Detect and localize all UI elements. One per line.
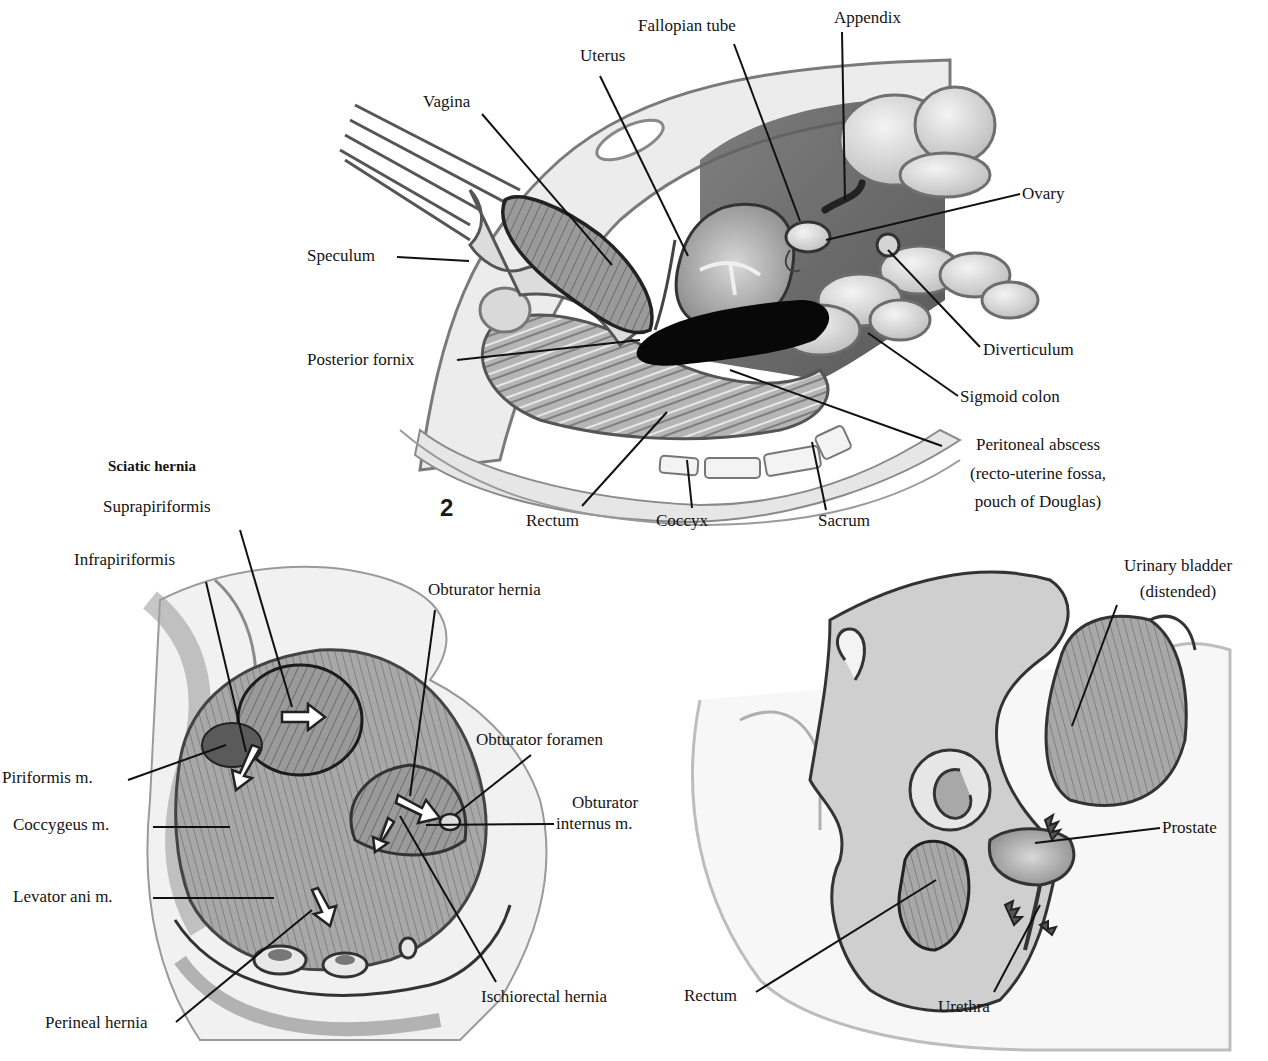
label-sigmoid-colon: Sigmoid colon <box>960 387 1060 407</box>
label-prostate: Prostate <box>1162 818 1217 838</box>
figure-title-sciatic-hernia: Sciatic hernia <box>108 456 196 476</box>
label-coccygeus: Coccygeus m. <box>13 815 109 835</box>
label-urethra: Urethra <box>938 997 990 1017</box>
label-peritoneal-abscess-line3: pouch of Douglas) <box>938 492 1138 512</box>
label-vagina: Vagina <box>423 92 470 112</box>
label-appendix: Appendix <box>834 8 901 28</box>
figure-number: 2 <box>440 494 453 522</box>
figure-3-artwork <box>147 567 546 1040</box>
leader-obturator-internus <box>426 824 554 825</box>
label-posterior-fornix: Posterior fornix <box>307 350 414 370</box>
label-suprapiriformis: Suprapiriformis <box>103 497 211 517</box>
label-infrapiriformis: Infrapiriformis <box>74 550 175 570</box>
label-levator-ani: Levator ani m. <box>13 887 113 907</box>
label-rectum: Rectum <box>526 511 579 531</box>
anatomy-illustration <box>0 0 1268 1061</box>
label-ovary: Ovary <box>1022 184 1064 204</box>
leader-sigmoid-colon <box>868 333 958 396</box>
label-perineal-hernia: Perineal hernia <box>45 1013 147 1033</box>
label-coccyx: Coccyx <box>656 511 708 531</box>
label-sacrum: Sacrum <box>818 511 870 531</box>
label-urinary-bladder-line2: (distended) <box>1098 582 1258 602</box>
label-diverticulum: Diverticulum <box>983 340 1074 360</box>
figure-4-artwork <box>693 572 1231 1050</box>
label-rectum: Rectum <box>684 986 737 1006</box>
label-ischiorectal-hernia: Ischiorectal hernia <box>481 987 607 1007</box>
label-piriformis: Piriformis m. <box>2 768 93 788</box>
label-obturator-hernia: Obturator hernia <box>428 580 541 600</box>
label-uterus: Uterus <box>580 46 625 66</box>
leader-speculum <box>397 257 469 261</box>
figure-2-artwork <box>340 60 1038 525</box>
label-obturator-internus-line2: internus m. <box>556 814 633 834</box>
label-peritoneal-abscess-line2: (recto-uterine fossa, <box>938 464 1138 484</box>
label-obturator-internus-line1: Obturator <box>550 793 660 813</box>
label-fallopian-tube: Fallopian tube <box>638 16 736 36</box>
label-obturator-foramen: Obturator foramen <box>476 730 603 750</box>
label-urinary-bladder-line1: Urinary bladder <box>1098 556 1258 576</box>
label-peritoneal-abscess-line1: Peritoneal abscess <box>938 435 1138 455</box>
label-speculum: Speculum <box>307 246 375 266</box>
